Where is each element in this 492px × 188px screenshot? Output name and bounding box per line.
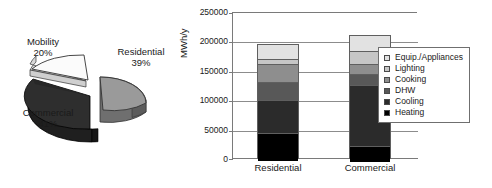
x-tick-residential: Residential (232, 162, 324, 173)
segment-residential-cooking[interactable] (258, 65, 298, 83)
legend-item-cooking[interactable]: Cooking (384, 74, 463, 85)
legend: Equip./Appliances Lighting Cooking DHW C… (378, 47, 470, 123)
legend-label-dhw: DHW (395, 85, 415, 96)
y-tick-150000: 150000 (200, 67, 228, 76)
y-tick-mark-0 (229, 159, 233, 160)
bar-residential[interactable] (257, 44, 299, 160)
legend-item-heating[interactable]: Heating (384, 107, 463, 118)
segment-residential-heating[interactable] (258, 134, 298, 161)
pie-label-mobility-pct: 20% (14, 47, 72, 58)
legend-swatch-icon-dhw (384, 88, 390, 94)
pie-label-residential-text: Residential (118, 46, 165, 57)
legend-swatch-icon-heating (384, 110, 390, 116)
pie-label-commercial-pct: 41% (12, 118, 84, 129)
y-tick-100000: 100000 (200, 96, 228, 105)
legend-label-cooking: Cooking (395, 74, 426, 85)
legend-swatch-icon-cooking (384, 77, 390, 83)
legend-label-lighting: Lighting (395, 63, 425, 74)
y-tick-200000: 200000 (200, 37, 228, 46)
bar-chart: MWh/y 250000 200000 150000 100000 50000 … (186, 0, 492, 188)
legend-swatch-icon-equip-appliances (384, 55, 390, 61)
pie-label-mobility-text: Mobility (27, 36, 59, 47)
y-tick-50000: 50000 (204, 126, 228, 135)
pie-label-residential: Residential 39% (108, 46, 174, 68)
segment-residential-equip-appliances[interactable] (258, 45, 298, 61)
legend-swatch-icon-lighting (384, 66, 390, 72)
legend-item-cooling[interactable]: Cooling (384, 96, 463, 107)
segment-residential-dhw[interactable] (258, 83, 298, 102)
legend-item-lighting[interactable]: Lighting (384, 63, 463, 74)
y-tick-mark-250000 (229, 13, 233, 14)
y-tick-mark-150000 (229, 72, 233, 73)
x-tick-commercial: Commercial (324, 162, 416, 173)
y-tick-mark-100000 (229, 101, 233, 102)
legend-label-cooling: Cooling (395, 96, 424, 107)
pie-label-commercial: Commercial 41% (12, 107, 84, 129)
pie-chart-svg (0, 0, 186, 188)
legend-item-dhw[interactable]: DHW (384, 85, 463, 96)
figure-root: Mobility 20% Residential 39% Commercial … (0, 0, 492, 188)
y-tick-250000: 250000 (200, 8, 228, 17)
pie-label-commercial-text: Commercial (23, 107, 74, 118)
pie-label-residential-pct: 39% (108, 57, 174, 68)
pie-label-mobility: Mobility 20% (14, 36, 72, 58)
pie-chart: Mobility 20% Residential 39% Commercial … (0, 0, 186, 188)
y-tick-0: 0 (223, 155, 228, 164)
y-tick-mark-200000 (229, 42, 233, 43)
y-tick-mark-50000 (229, 131, 233, 132)
y-axis-tick-labels: 250000 200000 150000 100000 50000 0 (186, 12, 228, 159)
legend-swatch-icon-cooling (384, 99, 390, 105)
legend-label-equip-appliances: Equip./Appliances (395, 52, 463, 63)
legend-item-equip-appliances[interactable]: Equip./Appliances (384, 52, 463, 63)
segment-commercial-heating[interactable] (350, 147, 390, 162)
segment-residential-cooling[interactable] (258, 101, 298, 133)
legend-label-heating: Heating (395, 107, 424, 118)
pie-slice-residential (100, 77, 146, 123)
